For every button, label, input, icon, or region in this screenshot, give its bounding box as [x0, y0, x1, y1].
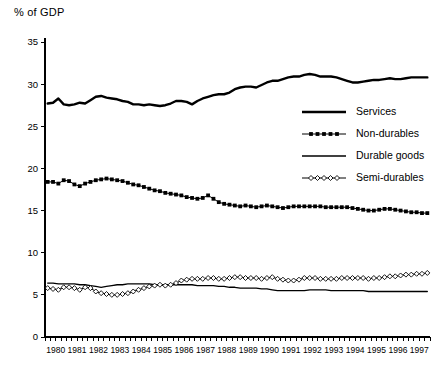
series-services [48, 74, 428, 106]
y-axis: 05101520253035 [27, 36, 45, 342]
x-axis-tick-label: 1984 [132, 345, 151, 355]
chart-container: % of GDP 05101520253035 1980198119821983… [0, 0, 445, 373]
x-axis-tick-label: 1992 [303, 345, 322, 355]
legend-item-semi-durables[interactable]: Semi-durables [302, 171, 424, 183]
x-axis-tick-label: 1990 [260, 345, 279, 355]
chart-legend: ServicesNon-durablesDurable goodsSemi-du… [302, 105, 424, 183]
x-axis-tick-label: 1985 [153, 345, 172, 355]
x-axis-tick-label: 1996 [388, 345, 407, 355]
x-axis-tick-label: 1993 [324, 345, 343, 355]
x-axis: 1980198119821983198419851986198719881989… [45, 337, 430, 355]
legend-item-durable-goods[interactable]: Durable goods [302, 149, 424, 161]
x-axis-tick-label: 1997 [410, 345, 429, 355]
y-axis-tick-label: 5 [33, 289, 38, 300]
y-axis-tick-label: 25 [27, 121, 38, 132]
y-axis-tick-label: 35 [27, 36, 38, 47]
x-axis-tick-label: 1988 [217, 345, 236, 355]
chart-plot-area: 05101520253035 1980198119821983198419851… [0, 0, 445, 373]
x-axis-tick-label: 1987 [196, 345, 215, 355]
x-axis-tick-label: 1982 [89, 345, 108, 355]
y-axis-tick-label: 15 [27, 205, 38, 216]
x-axis-tick-label: 1991 [282, 345, 301, 355]
legend-label: Services [356, 105, 396, 117]
x-axis-tick-label: 1983 [110, 345, 129, 355]
x-axis-tick-label: 1989 [239, 345, 258, 355]
y-axis-tick-label: 20 [27, 163, 38, 174]
legend-label: Durable goods [356, 149, 424, 161]
x-axis-tick-label: 1980 [46, 345, 65, 355]
x-axis-tick-label: 1995 [367, 345, 386, 355]
legend-item-non-durables[interactable]: Non-durables [302, 127, 419, 139]
y-axis-tick-label: 0 [33, 331, 38, 342]
legend-label: Non-durables [356, 127, 419, 139]
series-durable-goods [48, 283, 428, 291]
y-axis-tick-label: 30 [27, 79, 38, 90]
legend-label: Semi-durables [356, 171, 424, 183]
x-axis-tick-label: 1981 [68, 345, 87, 355]
legend-item-services[interactable]: Services [302, 105, 396, 117]
series-semi-durables [45, 270, 430, 297]
x-axis-tick-label: 1986 [175, 345, 194, 355]
x-axis-tick-label: 1994 [346, 345, 365, 355]
y-axis-tick-label: 10 [27, 247, 38, 258]
